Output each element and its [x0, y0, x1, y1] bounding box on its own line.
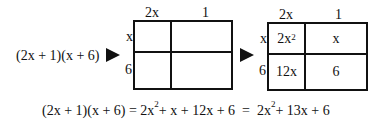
expression-label: (2x + 1)(x + 6) — [16, 49, 99, 63]
equation-lhs: (2x + 1)(x + 6) = — [42, 103, 140, 118]
empty-area-grid — [133, 20, 233, 90]
cell-12x: 12x — [269, 55, 304, 89]
equation-exponent: 2 — [154, 99, 159, 109]
cell-2x-squared: 2x2 — [269, 24, 304, 53]
arrow-right-icon — [240, 48, 254, 62]
equation-result: + 13x + 6 — [275, 103, 329, 118]
grid2-col-label-1: 1 — [335, 8, 342, 22]
cell-base: 2x — [277, 31, 291, 47]
grid2-col-label-2x: 2x — [279, 8, 293, 22]
grid1-row-label-x: x — [126, 30, 133, 44]
grid1-col-label-1: 1 — [202, 6, 209, 20]
cell-x: x — [306, 24, 366, 53]
equation-term: 2x — [140, 103, 154, 118]
grid1-divider-horizontal — [133, 51, 233, 53]
grid2-row-label-6: 6 — [259, 64, 266, 78]
equation-term: 2x — [257, 103, 271, 118]
cell-6: 6 — [306, 55, 366, 89]
grid1-row-label-6: 6 — [125, 63, 132, 77]
grid1-col-label-2x: 2x — [145, 6, 159, 20]
expanded-equation: (2x + 1)(x + 6) = 2x2+ x + 12x + 6 = 2x2… — [42, 104, 330, 118]
equation-middle: + x + 12x + 6 = — [159, 103, 257, 118]
arrow-right-icon — [106, 48, 120, 62]
grid2-row-label-x: x — [260, 32, 267, 46]
equation-exponent: 2 — [271, 99, 276, 109]
grid1-divider-vertical — [170, 20, 172, 90]
